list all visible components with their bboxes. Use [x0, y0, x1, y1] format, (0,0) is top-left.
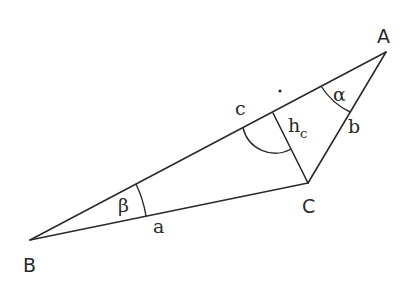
beta-arc: [136, 184, 146, 216]
right-angle-arc: [243, 128, 291, 153]
side-c-label: c: [235, 97, 246, 119]
right-angle-dot: [278, 89, 281, 92]
side-a-label: a: [153, 215, 164, 237]
alpha-label: α: [333, 83, 346, 105]
altitude-hc-subscript: c: [300, 126, 307, 141]
side-c-line: [30, 52, 386, 240]
altitude-hc-label: h: [288, 114, 300, 136]
beta-label: β: [118, 194, 129, 216]
side-b-line: [308, 52, 386, 183]
side-b-label: b: [348, 115, 360, 137]
side-a-line: [30, 183, 308, 240]
vertex-c-label: C: [302, 195, 315, 217]
vertex-a-label: A: [377, 25, 390, 47]
triangle-diagram: A B C a b c h c α β: [0, 0, 414, 282]
vertex-b-label: B: [23, 254, 36, 276]
